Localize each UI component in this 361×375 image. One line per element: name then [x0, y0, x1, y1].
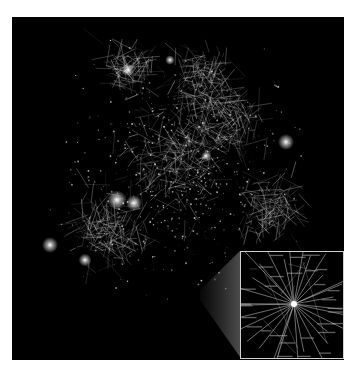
node-label — [319, 353, 331, 354]
node-label — [241, 289, 256, 290]
node-label — [259, 266, 274, 267]
inset-zoom-panel — [240, 251, 344, 359]
node-label — [303, 255, 320, 256]
node-label — [269, 255, 283, 256]
node-label — [287, 273, 303, 274]
inset-hub-node — [291, 301, 297, 307]
hub-node-glow — [165, 55, 175, 65]
hub-node-glow — [42, 237, 58, 253]
node-label — [316, 269, 327, 270]
hub-node-glow — [122, 64, 135, 77]
node-label — [278, 356, 293, 357]
node-label — [241, 305, 253, 306]
hub-node-glow — [201, 151, 211, 161]
node-label — [265, 286, 277, 287]
network-graph-canvas — [12, 17, 344, 360]
node-label — [301, 337, 314, 338]
hub-node-glow — [79, 254, 92, 267]
node-label — [270, 276, 284, 277]
node-label — [328, 308, 344, 309]
node-label — [241, 304, 251, 305]
node-label — [317, 323, 335, 324]
node-label — [280, 342, 295, 343]
hub-node-glow — [278, 134, 294, 150]
node-label — [290, 257, 305, 258]
node-label — [318, 332, 336, 333]
inset-hub-graph — [241, 252, 343, 358]
node-label — [246, 326, 262, 327]
node-label — [328, 311, 343, 312]
hub-node-glow — [126, 195, 142, 211]
inset-connector-wedge — [200, 251, 240, 357]
node-label — [261, 330, 271, 331]
node-label — [328, 290, 340, 291]
node-label — [322, 299, 337, 300]
node-label — [314, 284, 325, 285]
hub-node-glow — [107, 190, 126, 209]
node-label — [242, 317, 257, 318]
node-label — [298, 356, 311, 357]
